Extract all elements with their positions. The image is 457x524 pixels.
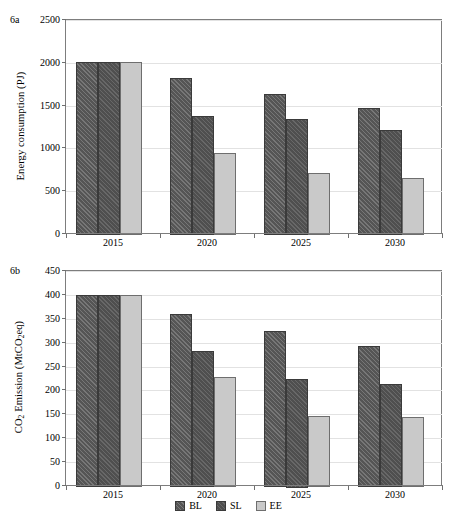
y-axis-tick bbox=[62, 147, 66, 148]
x-axis-tick-label: 2030 bbox=[348, 489, 442, 500]
y-axis-title-6a: Energy consumption (PJ) bbox=[15, 72, 26, 181]
bar-sl-2030 bbox=[380, 384, 402, 487]
bar-sl-2025 bbox=[286, 379, 308, 488]
y-axis-tick-label: 400 bbox=[0, 289, 60, 300]
y-axis-tick bbox=[62, 62, 66, 63]
y-axis-line bbox=[65, 19, 66, 234]
y-axis-tick-label: 1000 bbox=[0, 142, 60, 153]
y-axis-line bbox=[65, 270, 66, 486]
legend-swatch-bl-icon bbox=[175, 501, 185, 511]
bar-sl-2020 bbox=[192, 351, 214, 487]
bar-bl-2025 bbox=[264, 94, 286, 235]
y-axis-tick bbox=[62, 342, 66, 343]
y-axis-tick-label: 200 bbox=[0, 384, 60, 395]
y-axis-tick-label: 350 bbox=[0, 313, 60, 324]
legend-label-sl: SL bbox=[230, 500, 242, 511]
y-axis-tick-label: 250 bbox=[0, 361, 60, 372]
x-axis-tick-label: 2015 bbox=[66, 489, 160, 500]
y-axis-tick-label: 2000 bbox=[0, 57, 60, 68]
y-axis-tick bbox=[62, 461, 66, 462]
y-axis-tick-label: 50 bbox=[0, 456, 60, 467]
plot-area-6b bbox=[66, 270, 442, 485]
bar-ee-2020 bbox=[214, 377, 236, 487]
y-axis-tick-label: 1500 bbox=[0, 100, 60, 111]
bar-sl-2030 bbox=[380, 130, 402, 235]
legend-item-ee[interactable]: EE bbox=[256, 500, 282, 511]
bar-sl-2020 bbox=[192, 116, 214, 235]
y-axis-tick bbox=[62, 366, 66, 367]
y-axis-tick bbox=[62, 413, 66, 414]
y-axis-tick bbox=[62, 318, 66, 319]
legend-swatch-sl-icon bbox=[216, 501, 226, 511]
gridline-y bbox=[66, 271, 442, 272]
y-axis-title-6b-mid: Emission (MtCO bbox=[13, 338, 24, 414]
x-axis-tick-label: 2020 bbox=[160, 489, 254, 500]
legend-item-sl[interactable]: SL bbox=[216, 500, 242, 511]
bar-ee-2025 bbox=[308, 416, 330, 487]
legend-label-bl: BL bbox=[189, 500, 202, 511]
legend-label-ee: EE bbox=[270, 500, 282, 511]
x-axis-tick-label: 2015 bbox=[66, 237, 160, 248]
bar-ee-2030 bbox=[402, 417, 424, 487]
y-axis-tick-label: 450 bbox=[0, 265, 60, 276]
bar-ee-2030 bbox=[402, 178, 424, 235]
chart-legend: BLSLEE bbox=[0, 500, 457, 511]
y-axis-tick bbox=[62, 389, 66, 390]
y-axis-tick bbox=[62, 270, 66, 271]
bar-ee-2015 bbox=[120, 295, 142, 487]
x-axis-tick-label: 2020 bbox=[160, 237, 254, 248]
legend-swatch-ee-icon bbox=[256, 501, 266, 511]
bar-bl-2020 bbox=[170, 78, 192, 235]
y-axis-tick-label: 150 bbox=[0, 408, 60, 419]
figure-root: 6a Energy consumption (PJ) 0500100015002… bbox=[0, 0, 457, 524]
legend-item-bl[interactable]: BL bbox=[175, 500, 202, 511]
y-axis-tick bbox=[62, 190, 66, 191]
bar-bl-2030 bbox=[358, 108, 380, 235]
y-axis-tick-label: 0 bbox=[0, 228, 60, 239]
y-axis-tick bbox=[62, 105, 66, 106]
bar-bl-2030 bbox=[358, 346, 380, 487]
plot-area-6a bbox=[66, 19, 442, 233]
bar-bl-2015 bbox=[76, 295, 98, 487]
bar-sl-2015 bbox=[98, 295, 120, 487]
x-axis-tick-label: 2025 bbox=[254, 489, 348, 500]
gridline-y bbox=[66, 20, 442, 21]
y-axis-tick-label: 0 bbox=[0, 480, 60, 491]
y-axis-tick-label: 300 bbox=[0, 337, 60, 348]
y-axis-tick-label: 2500 bbox=[0, 14, 60, 25]
bar-bl-2015 bbox=[76, 62, 98, 235]
y-axis-tick-label: 100 bbox=[0, 432, 60, 443]
x-axis-tick bbox=[442, 486, 443, 490]
bar-ee-2025 bbox=[308, 173, 330, 235]
y-axis-tick bbox=[62, 294, 66, 295]
bar-sl-2015 bbox=[98, 62, 120, 235]
bar-bl-2025 bbox=[264, 331, 286, 487]
y-axis-tick bbox=[62, 19, 66, 20]
x-axis-tick-label: 2025 bbox=[254, 237, 348, 248]
bar-ee-2020 bbox=[214, 153, 236, 235]
bar-sl-2025 bbox=[286, 119, 308, 235]
bar-bl-2020 bbox=[170, 314, 192, 487]
bar-ee-2015 bbox=[120, 62, 142, 235]
x-axis-tick bbox=[442, 234, 443, 238]
y-axis-tick bbox=[62, 437, 66, 438]
x-axis-tick-label: 2030 bbox=[348, 237, 442, 248]
y-axis-tick-label: 500 bbox=[0, 185, 60, 196]
